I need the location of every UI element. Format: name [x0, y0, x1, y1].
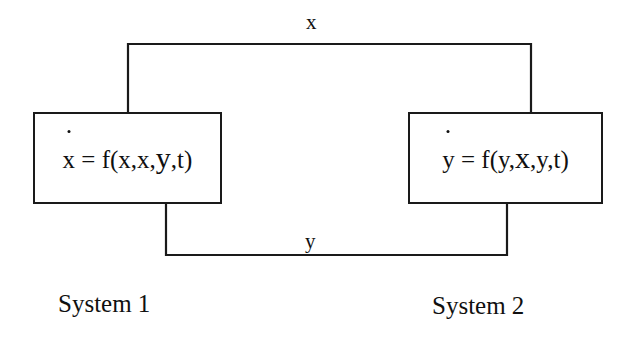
equation-system1: x = f(x,x,y,t)	[63, 143, 193, 173]
caption-system2: System 2	[432, 292, 524, 320]
state-var-xdot: x	[63, 147, 76, 172]
state-var-xdot-letter: x	[63, 146, 76, 173]
connector-label-y: y	[305, 229, 316, 254]
state-var-ydot-letter: y	[442, 146, 455, 173]
coupling-var-y: y	[156, 141, 171, 174]
equation-system2-lead: = f(y,	[455, 146, 515, 173]
connector-label-x: x	[306, 10, 317, 35]
block-system1: x = f(x,x,y,t)	[33, 112, 222, 204]
block-system2: y = f(y,x,y,t)	[408, 112, 603, 204]
equation-system1-lead: = f(x,x,	[75, 146, 156, 173]
coupling-var-x: x	[515, 141, 530, 174]
diagram-canvas: x y x = f(x,x,y,t) y = f(y,x,y,t) System…	[0, 0, 632, 343]
caption-system1: System 1	[58, 290, 150, 318]
overdot-icon	[67, 130, 70, 133]
equation-system2: y = f(y,x,y,t)	[442, 143, 569, 173]
equation-system1-tail: ,t)	[171, 146, 193, 173]
overdot-icon	[447, 130, 450, 133]
state-var-ydot: y	[442, 147, 455, 172]
equation-system2-tail: ,y,t)	[530, 146, 569, 173]
